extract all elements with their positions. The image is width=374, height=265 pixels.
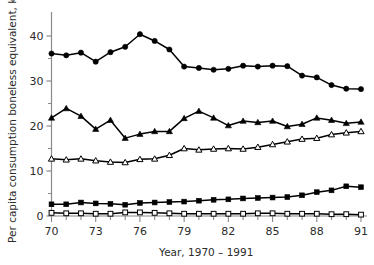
data-point-filled-circle — [255, 64, 260, 69]
data-point-filled-square — [196, 198, 201, 203]
data-point-filled-square — [285, 195, 290, 200]
data-point-open-square — [226, 211, 231, 216]
data-point-open-square — [300, 211, 305, 216]
data-point-filled-circle — [182, 64, 187, 69]
data-point-open-square — [138, 210, 143, 215]
y-axis-title: Per capita consumption boneless equivale… — [6, 0, 18, 243]
series-filled-triangle-line — [52, 108, 362, 138]
data-point-filled-triangle — [48, 115, 54, 120]
data-point-filled-circle — [137, 32, 142, 37]
data-point-filled-circle — [314, 75, 319, 80]
data-point-filled-square — [270, 195, 275, 200]
x-tick-label: 91 — [354, 225, 368, 238]
data-point-filled-square — [241, 196, 246, 201]
data-point-open-square — [64, 211, 69, 216]
data-point-filled-square — [123, 202, 128, 207]
data-point-filled-square — [152, 200, 157, 205]
data-point-filled-circle — [211, 67, 216, 72]
data-point-filled-square — [359, 185, 364, 190]
data-point-open-square — [344, 212, 349, 217]
chart-container: 0102030407073767982858891Year, 1970 – 19… — [0, 0, 374, 265]
data-point-filled-circle — [226, 66, 231, 71]
data-point-open-square — [182, 211, 187, 216]
data-point-filled-circle — [78, 50, 83, 55]
x-tick-label: 73 — [89, 225, 103, 238]
data-point-filled-circle — [49, 51, 54, 56]
series-filled-square — [49, 184, 363, 207]
y-tick-label: 10 — [30, 165, 44, 178]
data-point-filled-triangle — [196, 108, 202, 113]
data-point-filled-square — [79, 200, 84, 205]
data-point-filled-square — [64, 202, 69, 207]
y-tick-label: 0 — [37, 210, 44, 223]
data-point-filled-circle — [167, 47, 172, 52]
x-tick-label: 88 — [310, 225, 324, 238]
x-tick-label: 79 — [177, 225, 191, 238]
data-point-open-square — [79, 211, 84, 216]
x-tick-label: 82 — [221, 225, 235, 238]
data-point-open-square — [196, 211, 201, 216]
data-point-filled-square — [93, 201, 98, 206]
data-point-filled-circle — [329, 82, 334, 87]
data-point-open-square — [314, 211, 319, 216]
data-point-open-square — [285, 211, 290, 216]
data-point-filled-square — [138, 201, 143, 206]
x-axis-title: Year, 1970 – 1991 — [158, 246, 253, 258]
data-point-open-square — [167, 211, 172, 216]
data-point-filled-square — [226, 197, 231, 202]
data-point-filled-square — [167, 200, 172, 205]
y-tick-label: 40 — [30, 30, 44, 43]
data-point-filled-circle — [358, 87, 363, 92]
data-point-filled-square — [344, 184, 349, 189]
line-chart: 0102030407073767982858891Year, 1970 – 19… — [0, 0, 374, 265]
data-point-open-square — [49, 210, 54, 215]
x-tick-label: 76 — [133, 225, 147, 238]
data-point-open-square — [108, 211, 113, 216]
series-filled-circle — [49, 32, 364, 92]
data-point-filled-square — [182, 199, 187, 204]
data-point-open-square — [211, 211, 216, 216]
data-point-filled-square — [300, 193, 305, 198]
series-open-triangle-line — [52, 131, 362, 162]
data-point-filled-square — [329, 188, 334, 193]
data-point-open-square — [329, 212, 334, 217]
data-point-open-square — [241, 211, 246, 216]
data-point-filled-square — [314, 190, 319, 195]
y-tick-label: 20 — [30, 120, 44, 133]
data-point-open-square — [152, 210, 157, 215]
data-point-open-square — [359, 212, 364, 217]
data-point-open-square — [123, 210, 128, 215]
data-point-filled-circle — [196, 65, 201, 70]
data-point-filled-circle — [64, 53, 69, 58]
data-point-filled-square — [255, 196, 260, 201]
data-point-filled-circle — [285, 64, 290, 69]
x-tick-label: 85 — [266, 225, 280, 238]
x-tick-label: 70 — [45, 225, 59, 238]
series-open-triangle — [48, 128, 364, 164]
data-point-filled-circle — [123, 44, 128, 49]
data-point-filled-triangle — [107, 117, 113, 122]
data-point-filled-square — [211, 197, 216, 202]
data-point-filled-circle — [93, 59, 98, 64]
data-point-filled-circle — [108, 50, 113, 55]
data-point-filled-square — [49, 202, 54, 207]
data-point-filled-square — [108, 201, 113, 206]
data-point-filled-circle — [270, 63, 275, 68]
data-point-filled-circle — [152, 38, 157, 43]
y-tick-label: 30 — [30, 75, 44, 88]
data-point-open-square — [255, 211, 260, 216]
data-point-filled-triangle — [63, 105, 69, 110]
data-point-open-square — [270, 211, 275, 216]
data-point-filled-circle — [299, 73, 304, 78]
data-point-filled-circle — [344, 86, 349, 91]
data-point-open-square — [93, 211, 98, 216]
data-point-filled-circle — [240, 63, 245, 68]
